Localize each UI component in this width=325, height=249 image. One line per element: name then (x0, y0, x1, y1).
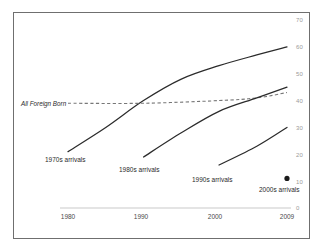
annotation-all-foreign-born: All Foreign Born (21, 100, 66, 107)
series-line-1990s-arrivals (219, 127, 287, 165)
y-tick-30: 30 (296, 125, 303, 131)
series-line-1980s-arrivals (144, 87, 287, 157)
series-point-2000s-arrivals (284, 176, 289, 181)
annotation-2000s-arrivals: 2000s arrivals (259, 186, 299, 193)
annotation-1980s-arrivals: 1980s arrivals (119, 166, 159, 173)
y-tick-0: 0 (296, 205, 300, 211)
x-tick-2009: 2009 (267, 213, 307, 220)
chart-container: 70 60 50 40 30 20 10 0 1980 1990 2000 20… (0, 0, 325, 249)
y-tick-60: 60 (296, 44, 303, 50)
x-tick-1980: 1980 (48, 213, 88, 220)
y-tick-40: 40 (296, 98, 303, 104)
x-tick-2000: 2000 (195, 213, 235, 220)
x-tick-1990: 1990 (121, 213, 161, 220)
y-tick-50: 50 (296, 71, 303, 77)
annotation-1970s-arrivals: 1970s arrivals (45, 156, 85, 163)
annotation-1990s-arrivals: 1990s arrivals (192, 176, 232, 183)
y-tick-10: 10 (296, 179, 303, 185)
y-tick-70: 70 (296, 17, 303, 23)
y-tick-20: 20 (296, 152, 303, 158)
series-line-all-foreign-born (68, 93, 287, 104)
chart-plot-area (0, 0, 325, 249)
